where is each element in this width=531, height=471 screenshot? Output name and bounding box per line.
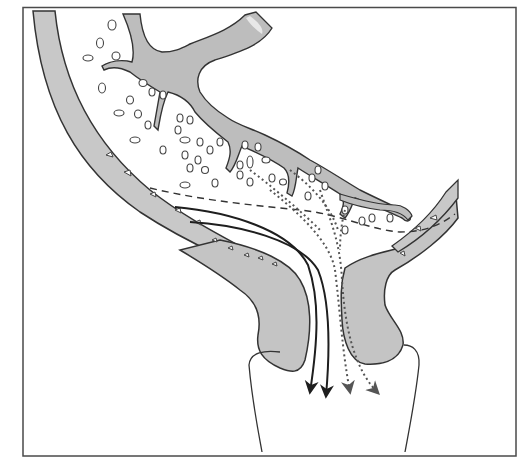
diagram-canvas	[0, 0, 531, 471]
anatomy-diagram	[0, 0, 531, 471]
